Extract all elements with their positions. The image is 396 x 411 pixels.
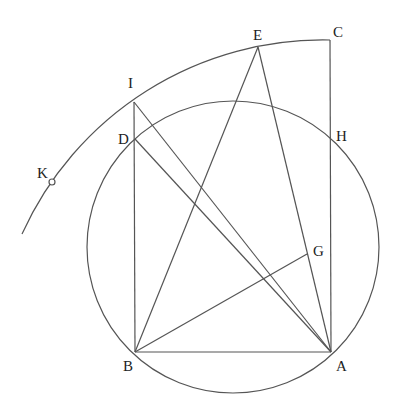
label-h: H <box>336 128 347 144</box>
label-b: B <box>123 358 133 374</box>
circle-abdh <box>87 101 379 393</box>
label-e: E <box>253 27 262 43</box>
label-g: G <box>313 243 324 259</box>
label-i: I <box>128 75 133 91</box>
label-c: C <box>333 24 343 40</box>
segment-bg <box>135 254 307 352</box>
diagram-canvas: I D K E C H G B A <box>0 0 396 411</box>
geometry-diagram: I D K E C H G B A <box>0 0 396 411</box>
label-a: A <box>336 358 347 374</box>
segment-be <box>135 47 258 352</box>
point-k-marker <box>49 179 55 185</box>
label-k: K <box>37 165 48 181</box>
label-d: D <box>118 131 129 147</box>
segment-ca <box>330 40 331 352</box>
arc-ceik <box>22 40 330 234</box>
segment-da <box>135 139 331 352</box>
